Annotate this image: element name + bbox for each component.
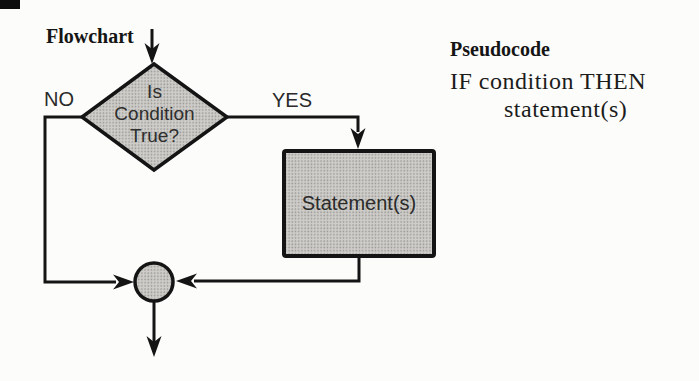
process-exit-arrowhead-icon [176,274,197,289]
process-label: Statement(s) [284,151,434,256]
pseudocode-line-2: statement(s) [504,96,627,122]
no-branch-label: NO [44,89,74,109]
yes-branch-label: YES [272,90,312,110]
figure-canvas: Flowchart NO YES Is Condition True? Stat… [0,0,699,381]
pseudocode-title: Pseudocode [450,39,550,59]
connector-circle [135,263,173,301]
decision-label-line3: True? [82,125,227,147]
yes-branch-line [227,117,358,132]
flowchart-title: Flowchart [46,26,134,46]
decision-label: Is Condition True? [82,81,227,147]
decision-label-line1: Is [82,81,227,103]
pseudocode-line-1: IF condition THEN [450,68,646,94]
no-branch-arrowhead-icon [113,275,134,290]
process-exit-line [194,256,359,281]
decision-label-line2: Condition [82,103,227,125]
